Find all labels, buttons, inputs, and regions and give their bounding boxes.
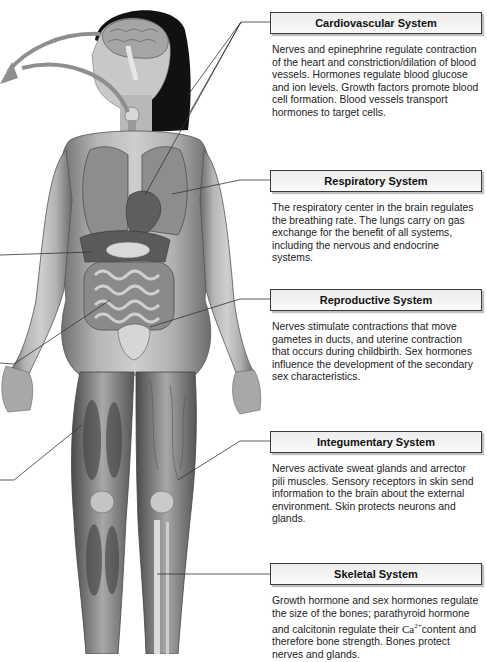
panel-title-integumentary: Integumentary System <box>270 431 482 453</box>
panel-skeletal: Skeletal System Growth hormone and sex h… <box>270 563 482 662</box>
panel-integumentary: Integumentary System Nerves activate swe… <box>270 431 482 526</box>
panel-title-cardiovascular: Cardiovascular System <box>270 12 482 34</box>
calcium-ion: Ca2+ <box>402 623 422 635</box>
panel-respiratory: Respiratory System The respiratory cente… <box>270 170 482 265</box>
panel-text-respiratory: The respiratory center in the brain regu… <box>270 202 482 265</box>
calcium-symbol: Ca <box>402 623 414 635</box>
panel-reproductive: Reproductive System Nerves stimulate con… <box>270 289 482 384</box>
panel-text-cardiovascular: Nerves and epinephrine regulate contract… <box>270 44 482 120</box>
panel-text-skeletal: Growth hormone and sex hormones regulate… <box>270 595 482 662</box>
panel-text-reproductive: Nerves stimulate contractions that move … <box>270 321 482 384</box>
pancreas-icon <box>106 242 150 258</box>
panel-title-skeletal: Skeletal System <box>270 563 482 585</box>
left-knee <box>90 491 114 513</box>
panel-title-reproductive: Reproductive System <box>270 289 482 311</box>
panel-title-respiratory: Respiratory System <box>270 170 482 192</box>
anatomy-figure <box>0 0 270 654</box>
calcium-charge: 2+ <box>414 622 421 630</box>
right-knee <box>150 491 174 513</box>
panel-cardiovascular: Cardiovascular System Nerves and epineph… <box>270 12 482 120</box>
panel-text-integumentary: Nerves activate sweat glands and arrecto… <box>270 463 482 526</box>
left-hand <box>2 366 33 412</box>
right-hand <box>233 370 261 414</box>
intestines-icon <box>84 262 174 330</box>
